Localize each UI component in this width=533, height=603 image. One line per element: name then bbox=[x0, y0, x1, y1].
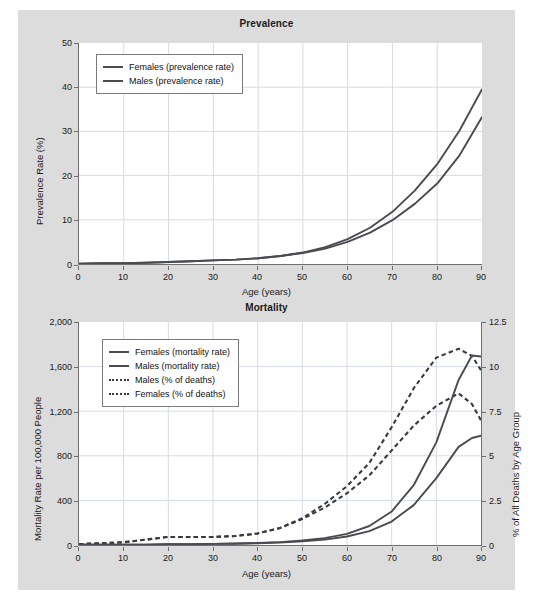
mortality-y-tick-5: 5 bbox=[489, 451, 523, 461]
prevalence-x-tick-10: 10 bbox=[113, 272, 133, 282]
mortality-y-tick-400: 400 bbox=[30, 496, 72, 506]
mortality-y-tick-800: 800 bbox=[30, 451, 72, 461]
mortality-x-tickmark bbox=[347, 547, 348, 551]
prevalence-y-tick-20: 20 bbox=[38, 171, 72, 181]
legend-label: Females (mortality rate) bbox=[135, 347, 230, 357]
prevalence-x-tickmark bbox=[123, 266, 124, 270]
mortality-y-tick-12-5: 12.5 bbox=[489, 317, 523, 327]
mortality-chart-panel: Mortality Mortality Rate per 100,000 Peo… bbox=[18, 297, 515, 590]
prevalence-y-tick-10: 10 bbox=[38, 215, 72, 225]
mortality-x-tick-30: 30 bbox=[203, 553, 223, 563]
mortality-y-tickmark-right bbox=[482, 546, 486, 547]
mortality-y-axis-title-right: % of All Deaths by Age Group bbox=[510, 412, 521, 537]
prevalence-x-tickmark bbox=[78, 266, 79, 270]
dashed-line-swatch-icon bbox=[109, 389, 129, 399]
legend-label: Females (prevalence rate) bbox=[129, 62, 234, 72]
prevalence-x-tickmark bbox=[213, 266, 214, 270]
legend-item-males-prevalence: Males (prevalence rate) bbox=[103, 74, 234, 88]
legend-item-males-mortality: Males (mortality rate) bbox=[109, 359, 230, 373]
prevalence-chart-panel: Prevalence Prevalence Rate (%) 50 40 30 … bbox=[18, 10, 515, 297]
mortality-x-tick-20: 20 bbox=[158, 553, 178, 563]
legend-item-females-prevalence: Females (prevalence rate) bbox=[103, 60, 234, 74]
figure-container: Prevalence Prevalence Rate (%) 50 40 30 … bbox=[18, 10, 515, 590]
prevalence-y-tick-0: 0 bbox=[38, 260, 72, 270]
mortality-y-tick-0: 0 bbox=[30, 541, 72, 551]
prevalence-legend: Females (prevalence rate) Males (prevale… bbox=[96, 54, 243, 94]
mortality-x-tickmark bbox=[437, 547, 438, 551]
mortality-x-tick-90: 90 bbox=[471, 553, 491, 563]
prevalence-x-tick-40: 40 bbox=[247, 272, 267, 282]
mortality-x-tick-50: 50 bbox=[292, 553, 312, 563]
mortality-y-tickmark-right bbox=[482, 412, 486, 413]
mortality-y-tick-0-r: 0 bbox=[489, 541, 523, 551]
prevalence-x-tick-30: 30 bbox=[203, 272, 223, 282]
mortality-chart-title: Mortality bbox=[18, 302, 515, 313]
legend-label: Males (mortality rate) bbox=[135, 361, 220, 371]
line-swatch-icon bbox=[103, 76, 123, 86]
prevalence-series-females bbox=[79, 89, 482, 263]
legend-item-males-pct-deaths: Males (% of deaths) bbox=[109, 373, 230, 387]
line-swatch-icon bbox=[109, 347, 129, 357]
prevalence-x-tickmark bbox=[168, 266, 169, 270]
mortality-y-tick-10: 10 bbox=[489, 362, 523, 372]
mortality-x-tickmark bbox=[392, 547, 393, 551]
prevalence-x-tick-0: 0 bbox=[68, 272, 88, 282]
mortality-x-tickmark bbox=[123, 547, 124, 551]
mortality-y-tick-2-5: 2.5 bbox=[489, 496, 523, 506]
mortality-x-tick-0: 0 bbox=[68, 553, 88, 563]
mortality-x-tickmark bbox=[213, 547, 214, 551]
mortality-y-tick-1600: 1,600 bbox=[30, 362, 72, 372]
legend-label: Females (% of deaths) bbox=[135, 389, 226, 399]
prevalence-x-tick-50: 50 bbox=[292, 272, 312, 282]
mortality-x-tickmark bbox=[168, 547, 169, 551]
prevalence-x-tick-20: 20 bbox=[158, 272, 178, 282]
legend-label: Males (% of deaths) bbox=[135, 375, 215, 385]
mortality-x-tick-60: 60 bbox=[337, 553, 357, 563]
mortality-x-tick-70: 70 bbox=[382, 553, 402, 563]
prevalence-x-tickmark bbox=[392, 266, 393, 270]
prevalence-x-tick-90: 90 bbox=[471, 272, 491, 282]
mortality-y-tick-2000: 2,000 bbox=[30, 317, 72, 327]
mortality-y-tickmark-right bbox=[482, 501, 486, 502]
legend-label: Males (prevalence rate) bbox=[129, 76, 224, 86]
mortality-x-tick-80: 80 bbox=[427, 553, 447, 563]
mortality-x-tickmark bbox=[257, 547, 258, 551]
prevalence-x-tickmark bbox=[302, 266, 303, 270]
prevalence-y-tick-40: 40 bbox=[38, 82, 72, 92]
mortality-y-axis-title-left: Mortality Rate per 100,000 People bbox=[32, 397, 43, 541]
mortality-x-tick-40: 40 bbox=[247, 553, 267, 563]
prevalence-chart-title: Prevalence bbox=[18, 18, 515, 29]
prevalence-x-axis-title: Age (years) bbox=[18, 286, 515, 297]
mortality-x-tickmark bbox=[481, 547, 482, 551]
mortality-y-tick-7-5: 7.5 bbox=[489, 407, 523, 417]
mortality-series-females-pct-deaths bbox=[79, 393, 481, 544]
legend-item-females-pct-deaths: Females (% of deaths) bbox=[109, 387, 230, 401]
mortality-legend: Females (mortality rate) Males (mortalit… bbox=[102, 339, 239, 407]
mortality-y-tickmark-right bbox=[482, 456, 486, 457]
mortality-x-axis-title: Age (years) bbox=[18, 568, 515, 579]
prevalence-x-tickmark bbox=[347, 266, 348, 270]
mortality-x-tickmark bbox=[302, 547, 303, 551]
prevalence-y-tick-50: 50 bbox=[38, 38, 72, 48]
mortality-x-tickmark bbox=[78, 547, 79, 551]
prevalence-x-tick-80: 80 bbox=[427, 272, 447, 282]
line-swatch-icon bbox=[103, 62, 123, 72]
dashed-line-swatch-icon bbox=[109, 375, 129, 385]
legend-item-females-mortality: Females (mortality rate) bbox=[109, 345, 230, 359]
prevalence-y-tick-30: 30 bbox=[38, 126, 72, 136]
prevalence-x-tickmark bbox=[437, 266, 438, 270]
prevalence-x-tickmark bbox=[481, 266, 482, 270]
mortality-y-tickmark-right bbox=[482, 322, 486, 323]
mortality-x-tick-10: 10 bbox=[113, 553, 133, 563]
prevalence-x-tick-70: 70 bbox=[382, 272, 402, 282]
prevalence-y-axis-title: Prevalence Rate (%) bbox=[34, 137, 45, 225]
line-swatch-icon bbox=[109, 361, 129, 371]
prevalence-series-males bbox=[79, 117, 482, 263]
prevalence-x-tick-60: 60 bbox=[337, 272, 357, 282]
mortality-y-tickmark-right bbox=[482, 367, 486, 368]
mortality-y-tick-1200: 1,200 bbox=[30, 407, 72, 417]
prevalence-x-tickmark bbox=[257, 266, 258, 270]
